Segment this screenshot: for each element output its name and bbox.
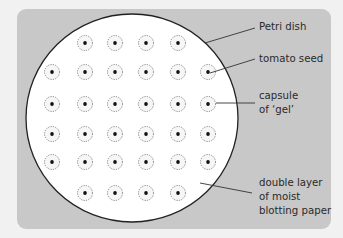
seed-capsule [171, 155, 186, 170]
seed-capsule [139, 186, 154, 201]
tomato-seed [113, 102, 117, 106]
seed-capsule [108, 36, 123, 51]
tomato-seed [113, 160, 117, 164]
tomato-seed [113, 70, 117, 74]
tomato-seed [206, 160, 210, 164]
label-paper-line2: of moist [259, 190, 300, 204]
tomato-seed [176, 132, 180, 136]
seed-capsule [78, 155, 93, 170]
seed-capsule [78, 97, 93, 112]
tomato-seed [176, 102, 180, 106]
tomato-seed [50, 70, 54, 74]
tomato-seed [176, 41, 180, 45]
seed-capsule [171, 97, 186, 112]
seed-capsule [45, 97, 60, 112]
seed-capsule [78, 65, 93, 80]
tomato-seed [113, 41, 117, 45]
seed-capsule [45, 65, 60, 80]
petri-dish-pointer [205, 28, 255, 43]
seed-capsule [45, 155, 60, 170]
label-petri-dish: Petri dish [259, 20, 306, 34]
seed-capsule [108, 97, 123, 112]
tomato-seed [113, 132, 117, 136]
seed-capsule [201, 155, 216, 170]
label-paper-line1: double layer [259, 176, 323, 190]
tomato-seed [83, 160, 87, 164]
seed-capsule [78, 36, 93, 51]
tomato-seed [50, 102, 54, 106]
tomato-seed [83, 132, 87, 136]
tomato-seed [83, 70, 87, 74]
tomato-seed [206, 132, 210, 136]
petri-dish [26, 14, 238, 222]
tomato-seed [50, 132, 54, 136]
seed-capsule [171, 65, 186, 80]
seed-capsule [201, 97, 216, 112]
tomato-seed [176, 191, 180, 195]
tomato-seed [83, 41, 87, 45]
seed-capsule [139, 127, 154, 142]
tomato-seed [206, 102, 210, 106]
tomato-seed [144, 41, 148, 45]
seed-capsule [108, 155, 123, 170]
seed-capsule [171, 36, 186, 51]
label-capsule-line2: of ‘gel’ [259, 103, 294, 117]
tomato-seed [83, 102, 87, 106]
seed-capsule [201, 127, 216, 142]
tomato-seed [144, 102, 148, 106]
seed-capsule [78, 186, 93, 201]
seed-capsule [45, 127, 60, 142]
tomato-seed [144, 191, 148, 195]
label-capsule-line1: capsule [259, 89, 298, 103]
seed-capsule [78, 127, 93, 142]
tomato-seed [206, 70, 210, 74]
tomato-seed [144, 132, 148, 136]
tomato-seed [176, 160, 180, 164]
tomato-seed [144, 160, 148, 164]
seed-capsule [139, 65, 154, 80]
seed-capsule [139, 155, 154, 170]
tomato-seed [144, 70, 148, 74]
label-paper-line3: blotting paper [259, 204, 331, 218]
seed-capsule [171, 127, 186, 142]
seed-capsule [139, 97, 154, 112]
tomato-seed [176, 70, 180, 74]
seed-capsule [139, 36, 154, 51]
tomato-seed [83, 191, 87, 195]
seed-capsule [108, 186, 123, 201]
label-tomato-seed: tomato seed [259, 52, 323, 66]
seed-capsule [108, 127, 123, 142]
seed-capsule [108, 65, 123, 80]
seed-capsule [171, 186, 186, 201]
tomato-seed [113, 191, 117, 195]
tomato-seed [50, 160, 54, 164]
